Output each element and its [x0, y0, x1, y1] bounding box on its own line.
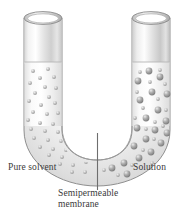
label-solution: Solution [133, 162, 166, 173]
right-tube-opening [132, 12, 170, 25]
label-pure-solvent: Pure solvent [8, 162, 56, 173]
left-tube-opening [24, 12, 62, 25]
label-membrane-line2: membrane [58, 199, 118, 210]
label-semipermeable-membrane: Semipermeable membrane [58, 188, 118, 210]
liquid-left [25, 62, 62, 132]
left-tube-glass [25, 18, 62, 64]
right-tube-glass [133, 18, 170, 64]
osmosis-u-tube-illustration [0, 0, 189, 216]
label-membrane-line1: Semipermeable [58, 188, 118, 199]
figure-canvas: Pure solvent Solution Semipermeable memb… [0, 0, 189, 216]
